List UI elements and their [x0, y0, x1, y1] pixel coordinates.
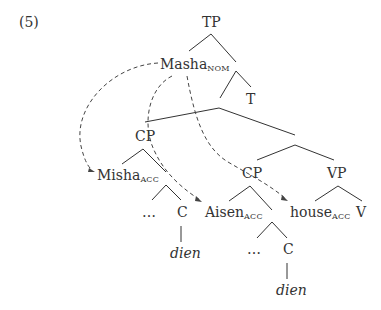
node-tp: TP: [202, 14, 221, 30]
node-vp: VP: [327, 165, 347, 181]
node-vp-object: houseACC: [290, 204, 351, 225]
node-cp2: CP: [242, 165, 262, 181]
cp2-spec-word: Aisen: [205, 204, 244, 220]
object-word: house: [290, 204, 332, 220]
node-subject: MashaNOM: [160, 56, 230, 77]
node-cp1-spec: MishaACC: [97, 167, 159, 188]
node-cp1-c: C: [177, 204, 188, 220]
node-t: T: [246, 91, 255, 107]
example-number: (5): [19, 14, 39, 30]
cp2-spec-case: ACC: [244, 212, 263, 221]
node-cp2-dots: …: [247, 241, 261, 257]
object-case: ACC: [332, 212, 351, 221]
node-cp2-dien: dien: [276, 282, 307, 298]
cp1-spec-case: ACC: [140, 175, 159, 184]
node-cp2-c: C: [283, 241, 294, 257]
subject-case: NOM: [207, 64, 229, 73]
node-v: V: [356, 204, 366, 220]
subject-word: Masha: [160, 56, 207, 72]
node-cp1-dots: …: [142, 204, 156, 220]
tree-lines: [0, 0, 381, 310]
node-cp1-dien: dien: [170, 245, 201, 261]
node-cp2-spec: AisenACC: [205, 204, 263, 225]
node-cp1: CP: [135, 128, 155, 144]
cp1-spec-word: Misha: [97, 167, 140, 183]
